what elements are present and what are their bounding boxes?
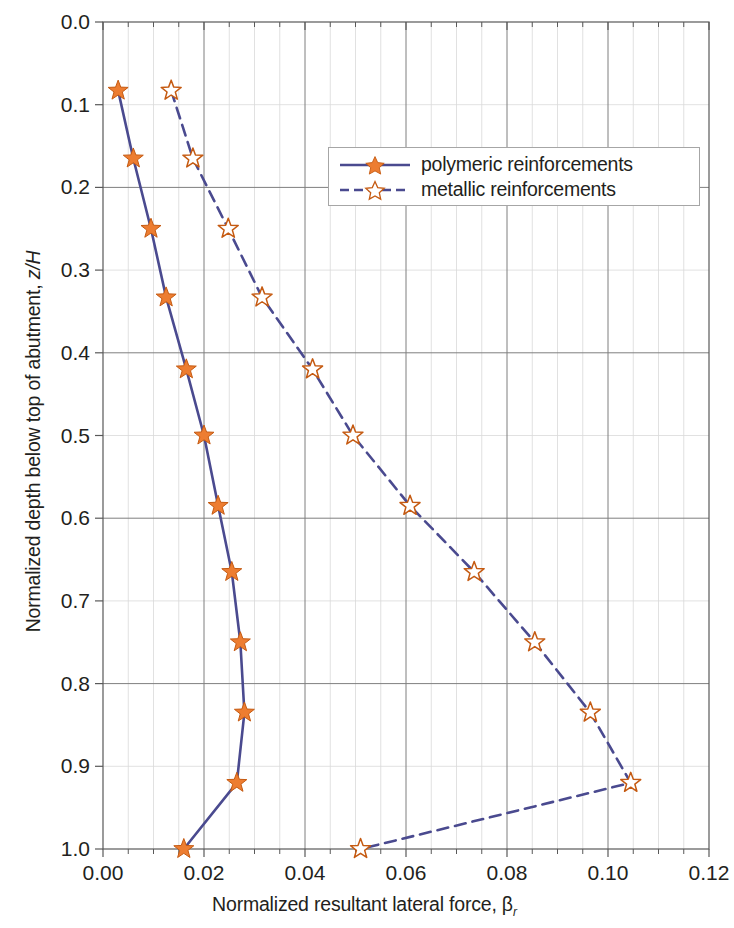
legend-label-metallic: metallic reinforcements (412, 178, 616, 201)
legend-box: polymeric reinforcements metallic reinfo… (328, 147, 700, 206)
legend-item-metallic: metallic reinforcements (329, 177, 699, 202)
legend-label-polymeric: polymeric reinforcements (412, 153, 633, 176)
legend-key-metallic-dashed-star-icon (338, 179, 412, 201)
legend-key-polymeric-solid-star-icon (338, 154, 412, 176)
legend-item-polymeric: polymeric reinforcements (329, 152, 699, 177)
